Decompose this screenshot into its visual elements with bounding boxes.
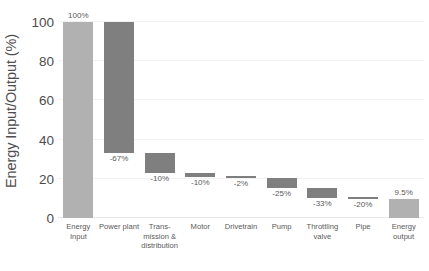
bar[interactable]: [307, 188, 337, 198]
bar-value-label: -20%: [354, 201, 373, 209]
waterfall-chart: Energy Input/Output (%) 020406080100 100…: [0, 0, 429, 271]
y-axis-title: Energy Input/Output (%): [0, 0, 22, 222]
bar-column[interactable]: -25%: [261, 22, 302, 218]
bar-column[interactable]: -10%: [139, 22, 180, 218]
bar[interactable]: [267, 178, 297, 188]
x-axis-category-label: Pump: [261, 222, 302, 232]
bar[interactable]: [348, 197, 378, 199]
bar-column[interactable]: -33%: [302, 22, 343, 218]
x-axis-category-label: Trans- mission & distribution: [139, 222, 180, 251]
x-axis-category-label: Power plant: [99, 222, 140, 232]
y-axis-tick-label: 40: [39, 132, 54, 147]
bar-value-label: -2%: [234, 180, 248, 188]
plot-area: 100%-67%-10%-10%-2%-25%-33%-20%9.5%: [58, 22, 424, 218]
bar[interactable]: [145, 153, 175, 173]
bar-column[interactable]: -67%: [99, 22, 140, 218]
y-axis-tick-label: 20: [39, 171, 54, 186]
bars-layer: 100%-67%-10%-10%-2%-25%-33%-20%9.5%: [58, 22, 424, 218]
x-axis-category-label: Motor: [180, 222, 221, 232]
y-axis-tick-labels: 020406080100: [22, 0, 58, 226]
y-axis-tick-label: 100: [31, 15, 54, 30]
bar-value-label: 9.5%: [395, 189, 413, 197]
bar-value-label: -10%: [191, 179, 210, 187]
x-axis-category-label: Pipe: [343, 222, 384, 232]
x-axis-category-label: Throttling valve: [302, 222, 343, 241]
bar-value-label: -67%: [110, 155, 129, 163]
bar-column[interactable]: -10%: [180, 22, 221, 218]
bar-column[interactable]: 9.5%: [383, 22, 424, 218]
bar-column[interactable]: 100%: [58, 22, 99, 218]
y-axis-tick-label: 80: [39, 54, 54, 69]
x-axis-category-labels: Energy InputPower plantTrans- mission & …: [58, 222, 424, 271]
y-axis-tick-label: 60: [39, 93, 54, 108]
bar[interactable]: [389, 199, 419, 218]
bar[interactable]: [63, 22, 93, 218]
bar-column[interactable]: -20%: [343, 22, 384, 218]
bar[interactable]: [185, 173, 215, 178]
bar-value-label: -33%: [313, 200, 332, 208]
x-axis-category-label: Energy Input: [58, 222, 99, 241]
y-axis-tick-label: 0: [46, 211, 54, 226]
bar-column[interactable]: -2%: [221, 22, 262, 218]
bar-value-label: -10%: [150, 175, 169, 183]
bar[interactable]: [104, 22, 134, 153]
bar-value-label: 100%: [68, 12, 88, 20]
bar-value-label: -25%: [272, 190, 291, 198]
x-axis-category-label: Energy output: [383, 222, 424, 241]
bar[interactable]: [226, 176, 256, 178]
y-axis-title-text: Energy Input/Output (%): [3, 34, 19, 188]
x-axis-category-label: Drivetrain: [221, 222, 262, 232]
